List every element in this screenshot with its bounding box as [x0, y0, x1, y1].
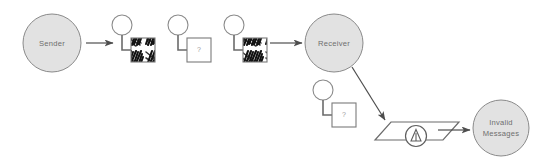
message-1[interactable]	[112, 15, 155, 62]
message-connector-line	[234, 35, 243, 50]
receiver-label: Receiver	[318, 39, 350, 48]
message-3[interactable]	[224, 15, 267, 62]
flow-diagram: Sender ? Receiver	[0, 0, 542, 158]
diagram-canvas: Sender ? Receiver	[0, 0, 542, 158]
message-node-circle	[168, 15, 188, 35]
node-validator[interactable]	[375, 122, 459, 147]
message-unknown-marker: ?	[197, 46, 201, 53]
message-unknown-marker: ?	[342, 111, 346, 118]
node-receiver[interactable]: Receiver	[305, 14, 363, 72]
connector-receiver-to-validator	[352, 67, 385, 120]
message-connector-line	[178, 35, 187, 50]
invalid-messages-label-line1: Invalid	[489, 118, 513, 127]
warning-triangle-icon	[406, 126, 427, 147]
sender-label: Sender	[39, 39, 65, 48]
invalid-messages-label-line2: Messages	[483, 129, 520, 138]
message-node-circle	[112, 15, 132, 35]
message-node-circle	[313, 80, 333, 100]
invalid-messages-circle	[473, 100, 529, 156]
message-payload-box	[243, 38, 267, 62]
node-invalid-messages[interactable]: Invalid Messages	[473, 100, 529, 156]
node-sender[interactable]: Sender	[23, 14, 81, 72]
message-node-circle	[224, 15, 244, 35]
message-2[interactable]: ?	[168, 15, 211, 62]
message-payload-box	[131, 38, 155, 62]
message-connector-line	[323, 100, 332, 115]
message-connector-line	[122, 35, 131, 50]
message-4[interactable]: ?	[313, 80, 356, 127]
